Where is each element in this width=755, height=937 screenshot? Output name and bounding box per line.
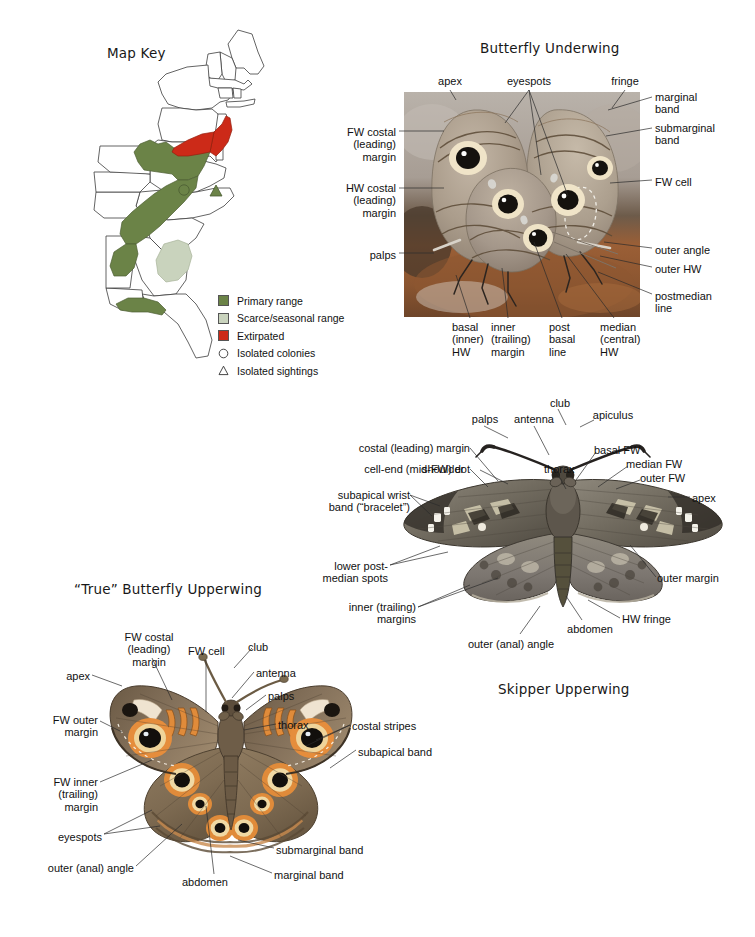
skipper-label-subapical-wrist-band: subapical wrist band (“bracelet”) xyxy=(300,489,410,514)
upperwing-label-club: club xyxy=(248,641,288,653)
underwing-label-outer-hw: outer HW xyxy=(655,263,745,275)
legend-row-extirpated: Extirpated xyxy=(218,327,344,345)
upperwing-label-abdomen: abdomen xyxy=(182,876,246,888)
legend-row-colonies: Isolated colonies xyxy=(218,345,344,363)
skipper-label-hw-fringe: HW fringe xyxy=(622,613,692,625)
skipper-label-apex: apex xyxy=(692,492,740,504)
legend-label: Scarce/seasonal range xyxy=(237,312,344,324)
upperwing-label-outer-anal-angle: outer (anal) angle xyxy=(22,862,134,874)
triangle-outline-icon xyxy=(218,365,229,376)
skipper-label-basal-fw: basal FW xyxy=(594,444,656,456)
skipper-label-median-fw: median FW xyxy=(626,458,698,470)
upperwing-label-fw-outer-margin: FW outer margin xyxy=(36,714,98,739)
upperwing-label-palps: palps xyxy=(268,690,314,702)
skipper-label-outer-anal-angle: outer (anal) angle xyxy=(452,638,570,650)
upperwing-label-costal-stripes: costal stripes xyxy=(352,720,442,732)
skipper-label-apiculus: apiculus xyxy=(585,409,641,421)
upperwing-label-fw-inner-margin: FW inner (trailing) margin xyxy=(24,776,98,813)
upperwing-label-eyespots: eyespots xyxy=(46,831,102,843)
upperwing-label-fw-costal: FW costal (leading) margin xyxy=(110,631,188,668)
upperwing-label-antenna: antenna xyxy=(256,667,312,679)
underwing-title: Butterfly Underwing xyxy=(480,40,620,56)
upperwing-label-apex: apex xyxy=(44,670,90,682)
underwing-label-post-basal-line: post basal line xyxy=(549,321,591,358)
anatomy-plate: Map Key xyxy=(0,0,755,937)
legend-row-primary: Primary range xyxy=(218,292,344,310)
upperwing-title: “True” Butterfly Upperwing xyxy=(74,581,262,597)
upperwing-label-fw-cell: FW cell xyxy=(188,645,246,657)
legend-label: Isolated sightings xyxy=(237,365,318,377)
skipper-label-costal-margin: costal (leading) margin xyxy=(330,442,470,454)
underwing-label-inner-margin: inner (trailing) margin xyxy=(491,321,547,358)
skipper-label-outer-fw: outer FW xyxy=(640,472,706,484)
underwing-label-marginal-band: marginal band xyxy=(655,91,745,116)
buckeye-photograph xyxy=(100,652,362,872)
skipper-label-club: club xyxy=(540,397,580,409)
underwing-label-eyespots: eyespots xyxy=(496,75,562,87)
skipper-label-outer-margin: outer margin xyxy=(657,572,739,584)
legend-label: Extirpated xyxy=(237,330,284,342)
skipper-label-thorax: thorax xyxy=(544,463,590,475)
underwing-label-fw-costal: FW costal (leading) margin xyxy=(330,126,396,163)
swatch-red-icon xyxy=(218,330,229,341)
legend-row-scarce: Scarce/seasonal range xyxy=(218,310,344,328)
skipper-label-inner-margins: inner (trailing) margins xyxy=(330,601,416,626)
upperwing-label-thorax: thorax xyxy=(278,719,330,731)
underwing-label-postmedian-line: postmedian line xyxy=(655,290,750,315)
legend-label: Primary range xyxy=(237,295,303,307)
underwing-photograph xyxy=(404,92,640,317)
underwing-label-submarginal-band: submarginal band xyxy=(655,122,750,147)
swatch-pale-green-icon xyxy=(218,313,229,324)
upperwing-label-marginal-band: marginal band xyxy=(274,869,370,881)
skipper-label-lower-postmedian-spots: lower post- median spots xyxy=(310,560,388,585)
skipper-label-palps: palps xyxy=(462,413,508,425)
underwing-label-hw-costal: HW costal (leading) margin xyxy=(330,182,396,219)
underwing-label-outer-angle: outer angle xyxy=(655,244,745,256)
legend-label: Isolated colonies xyxy=(237,347,315,359)
upperwing-label-submarginal-band: submarginal band xyxy=(276,844,386,856)
map-legend: Primary range Scarce/seasonal range Exti… xyxy=(218,292,344,380)
swatch-green-icon xyxy=(218,295,229,306)
legend-row-sightings: Isolated sightings xyxy=(218,362,344,380)
skipper-label-antenna: antenna xyxy=(508,413,560,425)
underwing-label-palps: palps xyxy=(330,249,396,261)
circle-marker xyxy=(179,185,189,195)
underwing-label-fringe: fringe xyxy=(598,75,652,87)
upperwing-label-subapical-band: subapical band xyxy=(358,746,454,758)
skipper-label-abdomen: abdomen xyxy=(557,623,623,635)
circle-outline-icon xyxy=(218,348,229,359)
skipper-label-shoulder: shoulder xyxy=(422,463,480,475)
underwing-label-median-hw: median (central) HW xyxy=(600,321,656,358)
underwing-label-apex: apex xyxy=(424,75,476,87)
underwing-label-fw-cell: FW cell xyxy=(655,176,735,188)
skipper-title: Skipper Upperwing xyxy=(498,681,630,697)
